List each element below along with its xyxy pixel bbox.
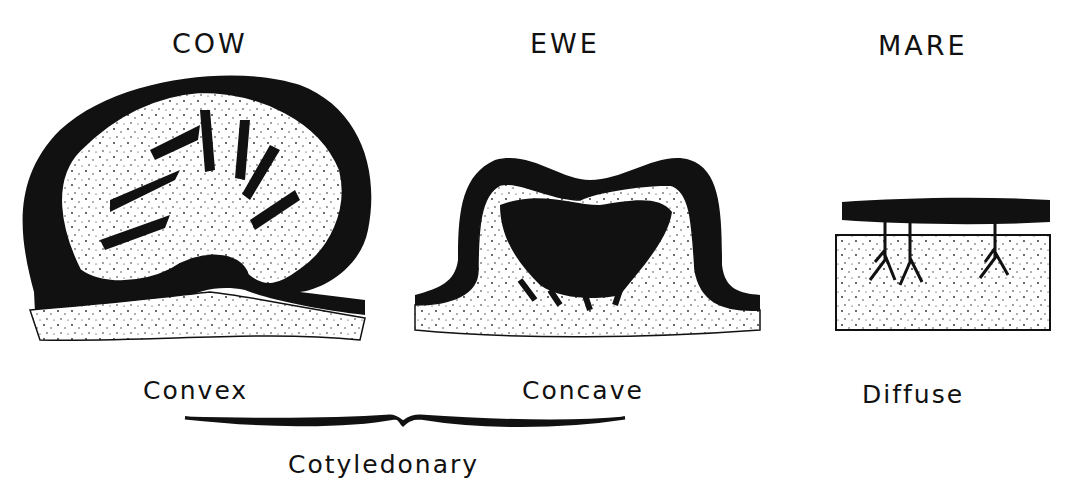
cotyledonary-label: Cotyledonary bbox=[288, 450, 479, 479]
brace-icon bbox=[0, 0, 1084, 504]
